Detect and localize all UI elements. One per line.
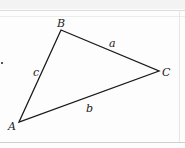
vertex-label-c: C (162, 66, 171, 79)
side-label-b: b (86, 102, 93, 115)
vertex-label-b: B (56, 17, 65, 30)
side-label-c: c (33, 66, 39, 79)
margin-mark (1, 62, 3, 64)
triangle-diagram: B C A a b c (0, 0, 185, 148)
diagram-frame: B C A a b c (0, 0, 185, 148)
vertex-label-a: A (7, 120, 16, 133)
side-label-a: a (109, 37, 116, 50)
